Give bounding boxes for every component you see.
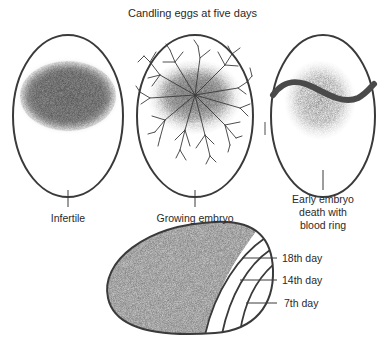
label-18th-day: 18th day [282, 252, 322, 264]
egg-growing-embryo [136, 35, 253, 207]
egg-air-cell [100, 215, 280, 340]
label-14th-day: 14th day [282, 274, 322, 286]
label-line: blood ring [278, 219, 368, 232]
candling-illustration [0, 0, 385, 347]
egg-early-death [265, 35, 375, 197]
label-growing-embryo: Growing embryo [145, 212, 245, 225]
label-line: Early embryo [278, 193, 368, 206]
label-early-death: Early embryo death with blood ring [278, 193, 368, 232]
label-line: death with [278, 206, 368, 219]
label-7th-day: 7th day [284, 297, 318, 309]
label-infertile: Infertile [18, 212, 118, 225]
egg-infertile [13, 35, 123, 207]
